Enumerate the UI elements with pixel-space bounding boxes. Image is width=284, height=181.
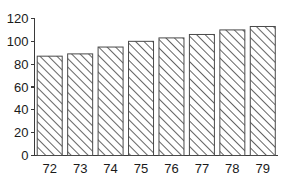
- bar-78: [220, 30, 245, 156]
- y-tick-label: 0: [21, 148, 28, 163]
- y-tick-label: 40: [14, 102, 28, 117]
- bar-73: [68, 54, 93, 156]
- bar-72: [37, 56, 62, 155]
- x-tick-label: 74: [103, 161, 117, 176]
- x-tick-label: 77: [195, 161, 209, 176]
- x-tick-labels: 7273747576777879: [42, 161, 270, 176]
- bar-79: [250, 26, 275, 155]
- chart-canvas: 020406080100120 7273747576777879: [0, 0, 284, 181]
- x-tick-label: 72: [42, 161, 56, 176]
- y-tick-label: 120: [7, 11, 29, 26]
- bar-series: [37, 26, 275, 155]
- x-tick-label: 73: [73, 161, 87, 176]
- y-tick-label: 100: [7, 34, 29, 49]
- x-tick-label: 76: [164, 161, 178, 176]
- bar-74: [98, 47, 123, 155]
- bar-76: [159, 38, 184, 156]
- y-tick-label: 20: [14, 125, 28, 140]
- x-tick-label: 79: [256, 161, 270, 176]
- x-tick-label: 75: [134, 161, 148, 176]
- bar-75: [129, 41, 154, 155]
- x-tick-label: 78: [225, 161, 239, 176]
- y-tick-label: 80: [14, 57, 28, 72]
- bar-chart-figure: 020406080100120 7273747576777879: [0, 0, 284, 181]
- bar-77: [189, 34, 214, 155]
- y-tick-label: 60: [14, 80, 28, 95]
- y-axis: 020406080100120: [7, 11, 35, 163]
